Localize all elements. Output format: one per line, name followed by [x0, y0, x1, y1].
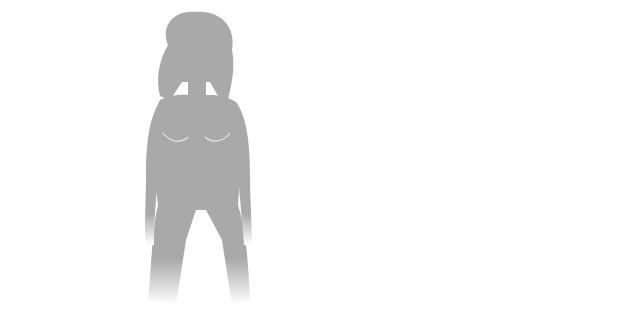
female-silhouette	[145, 12, 252, 305]
diagram-graphics	[0, 0, 628, 330]
puberty-hormone-diagram	[0, 0, 628, 330]
